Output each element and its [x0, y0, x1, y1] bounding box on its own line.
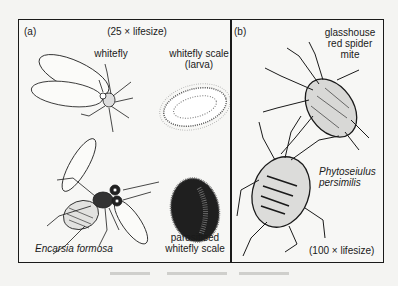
- red-spider-mite-line3: mite: [319, 49, 381, 60]
- red-spider-mite-label: glasshouse red spider mite: [319, 27, 381, 60]
- whitefly-scale-larva-label: whitefly scale (larva): [159, 48, 239, 70]
- figure-frame: (a) (25 × lifesize) whitefly whitefly sc…: [18, 19, 384, 263]
- panel-b-scale: (100 × lifesize): [309, 245, 374, 256]
- panel-a-scale: (25 × lifesize): [97, 26, 177, 37]
- panel-b-label: (b): [234, 26, 246, 37]
- whitefly-scale-larva-icon: [155, 76, 236, 137]
- phytoseiulus-line2: persimilis: [319, 177, 376, 188]
- phytoseiulus-persimilis-label: Phytoseiulus persimilis: [319, 166, 376, 188]
- encarsia-formosa-label: Encarsia formosa: [35, 243, 113, 254]
- parasitised-whitefly-scale-label: parasitised whitefly scale: [159, 232, 231, 254]
- parasitised-line1: parasitised: [159, 232, 231, 243]
- red-spider-mite-line2: red spider: [319, 38, 381, 49]
- encarsia-formosa-icon: [47, 135, 159, 254]
- show-through-text: [110, 268, 289, 277]
- phytoseiulus-line1: Phytoseiulus: [319, 166, 376, 177]
- panel-a-label: (a): [24, 26, 36, 37]
- parasitised-line2: whitefly scale: [159, 243, 231, 254]
- whitefly-label: whitefly: [81, 48, 141, 59]
- whitefly-icon: [30, 46, 133, 132]
- whitefly-scale-line2: (larva): [159, 59, 239, 70]
- whitefly-scale-line1: whitefly scale: [159, 48, 239, 59]
- panel-divider: [230, 20, 232, 262]
- red-spider-mite-line1: glasshouse: [319, 27, 381, 38]
